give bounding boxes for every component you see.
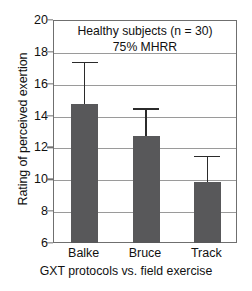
x-tick-label: Balke: [68, 246, 99, 260]
error-bar-stem: [207, 156, 209, 182]
x-axis-title: GXT protocols vs. field exercise: [0, 264, 252, 278]
y-tick-label: 18: [16, 45, 48, 59]
x-tick-label: Track: [191, 246, 222, 260]
chart-title: Healthy subjects (n = 30): [53, 23, 237, 39]
y-tick-label: 10: [16, 172, 48, 186]
y-tick-label: 6: [16, 236, 48, 250]
y-tick-label: 8: [16, 204, 48, 218]
error-bar-cap: [194, 156, 220, 158]
error-bar-cap: [72, 62, 98, 64]
error-bar-stem: [84, 62, 86, 104]
y-tick-label: 12: [16, 140, 48, 154]
chart-figure: Rating of perceived exertion 20181614121…: [0, 0, 252, 291]
y-tick-label: 20: [16, 13, 48, 27]
error-bar-cap: [133, 108, 159, 110]
y-tick-label: 16: [16, 77, 48, 91]
bar: [71, 104, 98, 243]
bar: [194, 182, 221, 243]
chart-title-block: Healthy subjects (n = 30) 75% MHRR: [53, 23, 237, 55]
x-tick-label: Bruce: [129, 246, 162, 260]
bar: [133, 136, 160, 243]
chart-subtitle: 75% MHRR: [53, 39, 237, 55]
y-tick-label: 14: [16, 109, 48, 123]
error-bar-stem: [145, 108, 147, 136]
caption-fragment: [6, 284, 246, 291]
gridline: [54, 85, 236, 86]
